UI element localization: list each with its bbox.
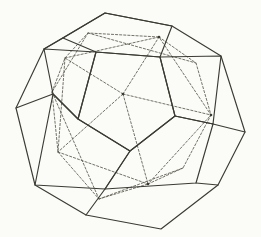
vertex-dot-front-hub (122, 93, 125, 96)
dodecahedron-edge-bottom-left-outer (86, 189, 105, 215)
icosahedron-lower-band (58, 115, 211, 184)
dodecahedron-left-face (44, 49, 96, 119)
dodecahedron-lower-right-face (105, 116, 213, 189)
icosahedron-edge-e (65, 58, 123, 94)
icosahedron-rear-top-link (88, 33, 196, 63)
vertex-dot-top-hub (158, 36, 161, 39)
dodecahedron-edge-right-outer (213, 124, 245, 132)
geometric-figure-panel (0, 0, 261, 237)
dodecahedron-edges (16, 13, 245, 229)
icosahedron-edge-b (123, 94, 211, 115)
vertex-dot-bottom-hub (147, 183, 150, 186)
icosahedron-rear-cross-link (52, 92, 99, 199)
dodecahedron-edge-bottom-right-outer (196, 183, 218, 185)
icosahedron-rear-right-lower (99, 115, 211, 199)
icosahedron-rear-upper-left (65, 33, 159, 58)
icosahedron-edge-a (123, 37, 159, 94)
dodecahedron-right-face (160, 56, 221, 124)
inscribed-icosahedron-edges (52, 33, 211, 199)
icosahedron-edge-c (123, 94, 148, 184)
icosahedron-edge-d (58, 94, 123, 152)
dodecahedron-edge-top-left-outer (44, 38, 63, 49)
vertex-dot-right-hub (210, 114, 213, 117)
icosahedron-rear-right-spine (148, 168, 183, 184)
dodecahedron-lower-left-face (35, 94, 130, 189)
polyhedron-diagram (0, 0, 261, 237)
